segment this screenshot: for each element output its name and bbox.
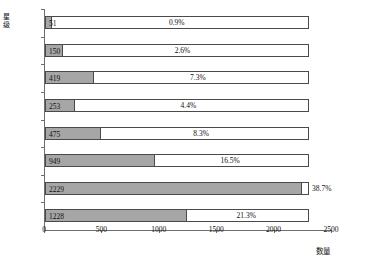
bar-percent-label: 38.7% — [312, 182, 331, 195]
bar-row: 1星122821.3% — [44, 202, 331, 230]
bar-outline: 475 — [45, 127, 309, 140]
x-axis-tick-label: 500 — [96, 225, 107, 234]
bar-outline: 253 — [45, 99, 309, 112]
x-axis-tick-label: 2000 — [266, 225, 281, 234]
bar-percent-label: 16.5% — [220, 154, 239, 167]
bar-outline: 949 — [45, 154, 309, 167]
y-axis-title: 星级 — [1, 14, 11, 29]
x-axis-title: 数量 — [316, 245, 330, 256]
x-axis-tick-label: 2500 — [324, 225, 339, 234]
bar-row: 4.5星1502.6% — [44, 37, 331, 65]
bar-row: 4星4197.3% — [44, 64, 331, 92]
x-axis-tick-label: 1500 — [209, 225, 224, 234]
bar-row: 2.5星94916.5% — [44, 147, 331, 175]
bar-fill — [46, 183, 302, 194]
bar-value-label: 253 — [49, 100, 60, 113]
bar-row: 3星4758.3% — [44, 120, 331, 148]
bar-outline: 2229 — [45, 182, 309, 195]
bar-chart: 星级 5星510.9%4.5星1502.6%4星4197.3%3.5星2534.… — [0, 0, 378, 265]
bar-percent-label: 2.6% — [175, 44, 191, 57]
bar-percent-label: 4.4% — [181, 99, 197, 112]
x-axis-tick-label: 0 — [42, 225, 46, 234]
x-axis-line — [44, 230, 332, 231]
bar-row: 3.5星2534.4% — [44, 92, 331, 120]
bar-row: 5星510.9% — [44, 9, 331, 37]
bar-percent-label: 0.9% — [169, 16, 185, 29]
bar-outline: 1228 — [45, 209, 309, 222]
bar-value-label: 51 — [49, 17, 57, 30]
bar-fill — [46, 155, 155, 166]
bar-percent-label: 7.3% — [190, 71, 206, 84]
bar-outline: 419 — [45, 71, 309, 84]
bar-value-label: 949 — [49, 155, 60, 168]
bar-value-label: 1228 — [49, 210, 64, 223]
bar-value-label: 419 — [49, 72, 60, 85]
x-axis-tick-label: 1000 — [151, 225, 166, 234]
bar-fill — [46, 210, 187, 221]
bar-value-label: 2229 — [49, 183, 64, 196]
bar-value-label: 150 — [49, 45, 60, 58]
bar-percent-label: 8.3% — [193, 127, 209, 140]
plot-area: 5星510.9%4.5星1502.6%4星4197.3%3.5星2534.4%3… — [44, 9, 331, 230]
bar-row: 2星222938.7% — [44, 175, 331, 203]
bar-percent-label: 21.3% — [237, 209, 256, 222]
bar-value-label: 475 — [49, 128, 60, 141]
